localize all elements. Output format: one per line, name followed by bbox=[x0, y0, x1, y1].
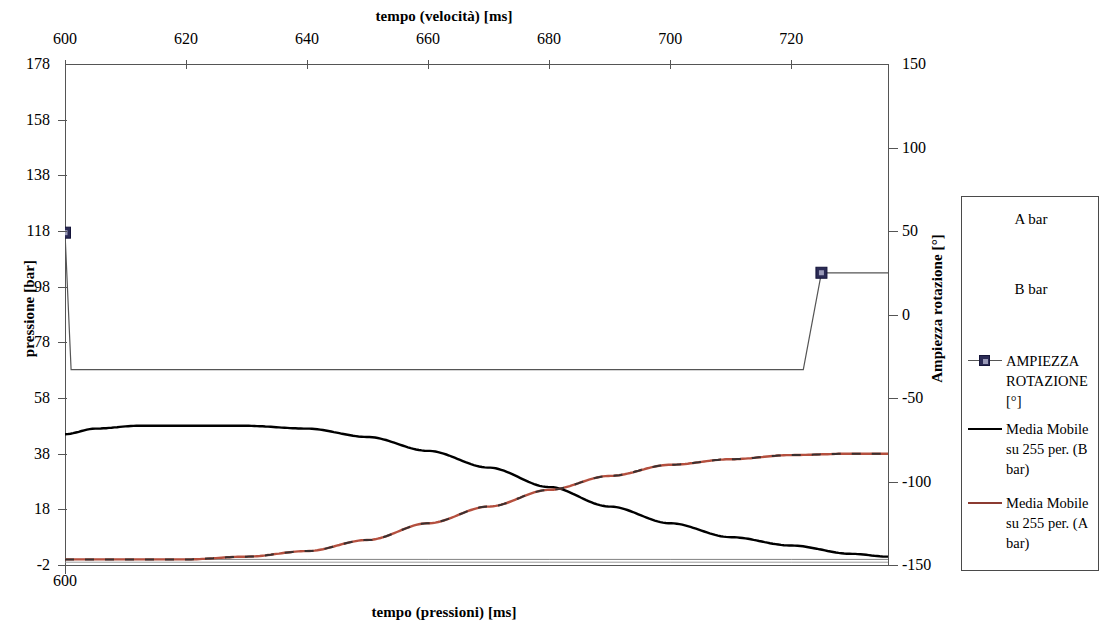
top-tick-label: 680 bbox=[537, 30, 561, 48]
legend-label: Media Mobile su 255 per. (B bar) bbox=[1006, 419, 1098, 479]
left-tick-label: 18 bbox=[4, 500, 50, 518]
axis-tick-mark bbox=[58, 509, 67, 510]
axis-tick-mark bbox=[889, 565, 898, 566]
legend-key-square-marker-icon bbox=[979, 355, 990, 366]
axis-tick-mark bbox=[58, 565, 67, 566]
left-axis-title: pressione [bar] bbox=[21, 224, 38, 394]
top-tick-label: 640 bbox=[295, 30, 319, 48]
axis-tick-mark bbox=[670, 60, 671, 69]
axis-tick-mark bbox=[65, 60, 66, 69]
legend-item-b-bar[interactable]: B bar bbox=[962, 281, 1100, 298]
series-marker bbox=[65, 227, 71, 238]
legend-item-a-bar[interactable]: A bar bbox=[962, 211, 1100, 228]
plot-area bbox=[65, 64, 888, 565]
top-tick-label: 660 bbox=[416, 30, 440, 48]
bottom-tick-label: 600 bbox=[53, 572, 77, 590]
axis-tick-mark bbox=[791, 60, 792, 69]
axis-tick-mark bbox=[58, 454, 67, 455]
left-tick-label: 38 bbox=[4, 445, 50, 463]
bottom-axis-title: tempo (pressioni) [ms] bbox=[0, 604, 888, 621]
series-ampiezza-rotazione bbox=[65, 233, 888, 370]
axis-tick-mark bbox=[889, 482, 898, 483]
axis-tick-mark bbox=[58, 342, 67, 343]
axis-tick-mark bbox=[889, 231, 898, 232]
legend-label: AMPIEZZA ROTAZIONE [°] bbox=[1006, 351, 1098, 411]
right-tick-label: 50 bbox=[902, 222, 950, 240]
right-tick-label: -100 bbox=[902, 473, 950, 491]
axis-tick-mark bbox=[58, 287, 67, 288]
right-tick-label: 150 bbox=[902, 55, 950, 73]
top-tick-label: 720 bbox=[779, 30, 803, 48]
axis-tick-mark bbox=[307, 60, 308, 69]
right-tick-label: -150 bbox=[902, 556, 950, 574]
axis-tick-mark bbox=[58, 398, 67, 399]
legend-key-line bbox=[968, 502, 1002, 504]
series-marker bbox=[816, 267, 827, 278]
left-tick-label: 138 bbox=[4, 166, 50, 184]
legend-label: Media Mobile su 255 per. (A bar) bbox=[1006, 493, 1098, 553]
top-tick-label: 700 bbox=[658, 30, 682, 48]
top-tick-label: 620 bbox=[174, 30, 198, 48]
axis-tick-mark bbox=[889, 315, 898, 316]
axis-tick-mark bbox=[58, 231, 67, 232]
right-tick-label: 0 bbox=[902, 306, 950, 324]
axis-tick-mark bbox=[549, 60, 550, 69]
top-axis-title: tempo (velocità) [ms] bbox=[0, 8, 888, 25]
right-tick-label: 100 bbox=[902, 139, 950, 157]
axis-tick-mark bbox=[65, 566, 66, 574]
chart-canvas: tempo (velocità) [ms] tempo (pressioni) … bbox=[0, 0, 1104, 634]
left-tick-label: -2 bbox=[4, 556, 50, 574]
top-tick-label: 600 bbox=[53, 30, 77, 48]
series-media-mobile-a-bar bbox=[65, 454, 888, 560]
left-tick-label: 98 bbox=[4, 278, 50, 296]
series-media-mobile-a-bar-overlay bbox=[65, 454, 888, 560]
legend-key-line bbox=[968, 428, 1002, 430]
axis-tick-mark bbox=[58, 175, 67, 176]
axis-tick-mark bbox=[428, 60, 429, 69]
left-tick-label: 158 bbox=[4, 111, 50, 129]
series-media-mobile-b-bar bbox=[65, 426, 888, 557]
left-tick-label: 178 bbox=[4, 55, 50, 73]
bottom-axis-line bbox=[65, 565, 888, 566]
legend-box: A barB barAMPIEZZA ROTAZIONE [°]Media Mo… bbox=[961, 196, 1099, 571]
axis-tick-mark bbox=[889, 148, 898, 149]
axis-tick-mark bbox=[186, 60, 187, 69]
left-tick-label: 78 bbox=[4, 333, 50, 351]
left-tick-label: 58 bbox=[4, 389, 50, 407]
axis-tick-mark bbox=[58, 120, 67, 121]
axis-tick-mark bbox=[889, 398, 898, 399]
right-tick-label: -50 bbox=[902, 389, 950, 407]
left-tick-label: 118 bbox=[4, 222, 50, 240]
